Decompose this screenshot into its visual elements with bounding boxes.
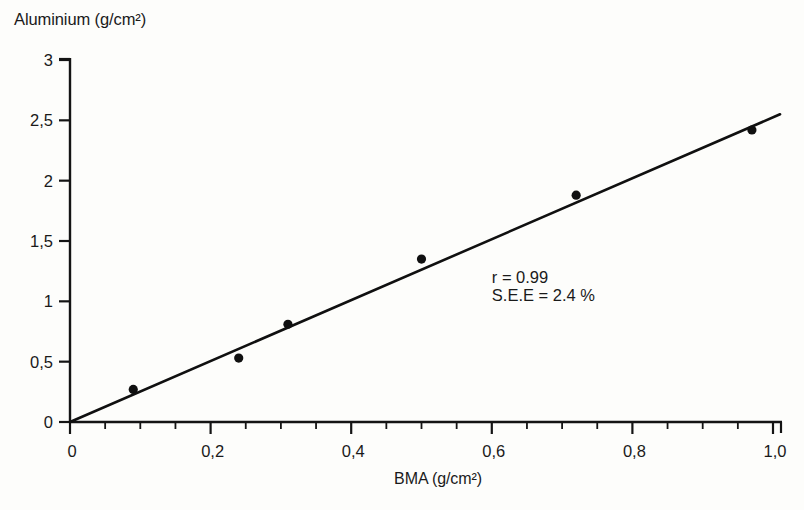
x-axis-tick-label: 0,2 bbox=[201, 442, 224, 460]
x-axis-tick-label: 0,4 bbox=[342, 442, 365, 460]
annotation-correlation: r = 0.99 bbox=[492, 268, 548, 286]
x-axis-tick-label: 0,8 bbox=[623, 442, 646, 460]
y-axis-tick-label: 0,5 bbox=[30, 353, 53, 371]
regression-line bbox=[70, 114, 780, 422]
y-axis-tick-label: 2,5 bbox=[30, 111, 53, 129]
x-axis-title: BMA (g/cm²) bbox=[0, 470, 804, 488]
x-axis-title-text: BMA (g/cm²) bbox=[394, 470, 482, 487]
x-axis-tick-label: 0 bbox=[67, 442, 76, 460]
data-point bbox=[572, 191, 581, 200]
data-point bbox=[417, 255, 426, 264]
y-axis-tick-label: 2 bbox=[44, 172, 53, 190]
data-point bbox=[234, 353, 243, 362]
chart-figure: Aluminium (g/cm²) 00,511,522,5300,20,40,… bbox=[0, 0, 804, 510]
annotation-standard-error: S.E.E = 2.4 % bbox=[492, 286, 596, 304]
x-axis-tick-label: 0,6 bbox=[482, 442, 505, 460]
x-axis-tick-label: 1,0 bbox=[764, 442, 787, 460]
y-axis-tick-label: 1,5 bbox=[30, 232, 53, 250]
y-axis-tick-label: 3 bbox=[44, 51, 53, 69]
y-axis-tick-label: 1 bbox=[44, 292, 53, 310]
y-axis-tick-label: 0 bbox=[44, 413, 53, 431]
scatter-plot-canvas: 00,511,522,5300,20,40,60,81,0r = 0.99S.E… bbox=[0, 0, 804, 510]
